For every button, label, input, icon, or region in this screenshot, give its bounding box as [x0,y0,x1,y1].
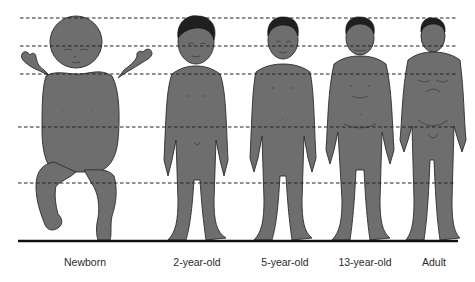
label-newborn: Newborn [40,256,130,268]
label-adult: Adult [389,256,475,268]
figure-5-year-old [250,17,316,240]
figure-2-year-old [164,16,228,240]
figure-newborn [21,16,152,240]
label-2-year-old: 2-year-old [152,256,242,268]
body-proportions-diagram: Newborn 2-year-old 5-year-old 13-year-ol… [0,0,475,282]
figure-13-year-old [326,17,394,240]
label-5-year-old: 5-year-old [240,256,330,268]
figure-adult [400,18,466,240]
